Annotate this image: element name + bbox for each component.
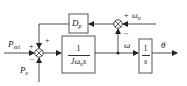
sum-power-top-sign: + (45, 37, 50, 45)
sum-speed-right-sign: + (124, 12, 129, 20)
theta-label: θ (161, 41, 165, 50)
p-e-label: Pe (20, 66, 28, 76)
inertia-transfer-function: 1 Jωns (62, 45, 95, 67)
integrator-transfer-function: 1 s (139, 45, 152, 66)
omega-n-label: ωn (132, 12, 141, 21)
omega-label: ω (124, 41, 130, 50)
sum-power-bottom-sign: − (30, 56, 35, 64)
damping-block-label: Dp (72, 19, 82, 29)
sum-speed-junction (114, 20, 122, 28)
sum-power-left-sign: + (29, 43, 34, 51)
sum-speed-bottom-sign: − (124, 30, 129, 38)
sum-power-junction (35, 49, 43, 57)
p-set-label: Pset (8, 40, 20, 50)
